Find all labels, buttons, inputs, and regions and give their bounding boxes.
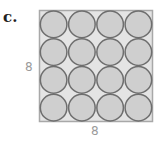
circle	[97, 39, 124, 66]
circle	[97, 94, 124, 121]
circle	[125, 11, 152, 38]
circle	[97, 67, 124, 94]
circle	[40, 94, 67, 121]
circle	[40, 67, 67, 94]
circle	[125, 94, 152, 121]
circle	[40, 39, 67, 66]
circle	[69, 39, 96, 66]
circle	[97, 11, 124, 38]
circle	[69, 11, 96, 38]
circle	[125, 39, 152, 66]
side-length-label-bottom: 8	[91, 124, 99, 138]
circles-in-square-figure	[0, 0, 159, 141]
side-length-label-left: 8	[25, 60, 33, 74]
circle	[69, 67, 96, 94]
circle	[125, 67, 152, 94]
circle	[69, 94, 96, 121]
circle	[40, 11, 67, 38]
